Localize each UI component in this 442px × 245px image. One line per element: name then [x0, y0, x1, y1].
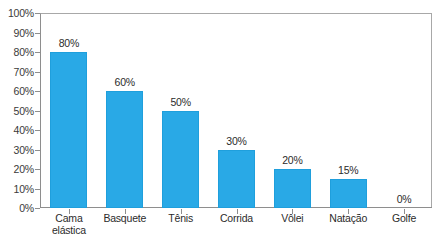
x-axis-category-label: Cama elástica [41, 212, 97, 236]
y-axis-tick-label: 90% [0, 27, 34, 39]
bar-value-label: 60% [115, 76, 135, 88]
bar-group: 15% [330, 13, 367, 208]
bar[interactable] [50, 52, 87, 208]
bar[interactable] [106, 91, 143, 208]
y-axis-tick-label: 80% [0, 46, 34, 58]
y-axis-tick-label: 50% [0, 105, 34, 117]
y-axis-tick-mark [35, 130, 40, 131]
y-axis-tick-label: 0% [0, 202, 34, 214]
bar-value-label: 50% [170, 96, 190, 108]
y-axis-tick-label: 10% [0, 183, 34, 195]
y-axis-tick-mark [35, 150, 40, 151]
bar-value-label: 30% [226, 135, 246, 147]
bar-value-label: 0% [397, 193, 412, 205]
y-axis-tick-label: 40% [0, 124, 34, 136]
y-axis-tick-mark [35, 72, 40, 73]
y-axis-tick-label: 30% [0, 144, 34, 156]
y-axis-tick-label: 60% [0, 85, 34, 97]
x-axis-labels: Cama elásticaBasqueteTênisCorridaVôleiNa… [41, 209, 432, 245]
y-axis-tick-mark [35, 189, 40, 190]
bar-group: 80% [50, 13, 87, 208]
bar-group: 30% [218, 13, 255, 208]
y-axis-tick-label: 70% [0, 66, 34, 78]
x-axis-tick-mark [348, 209, 349, 214]
x-axis-tick-mark [125, 209, 126, 214]
x-axis-tick-mark [181, 209, 182, 214]
bar-chart: 0%10%20%30%40%50%60%70%80%90%100% 80%60%… [0, 0, 442, 245]
bar[interactable] [330, 179, 367, 208]
bar[interactable] [218, 150, 255, 209]
y-axis: 0%10%20%30%40%50%60%70%80%90%100% [0, 0, 34, 245]
x-axis-tick-mark [404, 209, 405, 214]
bar[interactable] [274, 169, 311, 208]
bar-value-label: 15% [338, 164, 358, 176]
y-axis-tick-mark [35, 52, 40, 53]
y-axis-tick-label: 100% [0, 7, 34, 19]
x-axis-tick-mark [69, 209, 70, 214]
x-axis-tick-mark [292, 209, 293, 214]
y-axis-tick-mark [35, 208, 40, 209]
bar-group: 0% [386, 13, 423, 208]
bars-container: 80%60%50%30%20%15%0% [41, 13, 432, 208]
bar-group: 60% [106, 13, 143, 208]
y-axis-tick-mark [35, 91, 40, 92]
bar-group: 50% [162, 13, 199, 208]
y-axis-tick-mark [35, 169, 40, 170]
bar[interactable] [162, 111, 199, 209]
x-axis-tick-mark [237, 209, 238, 214]
y-axis-tick-mark [35, 13, 40, 14]
y-axis-tick-mark [35, 33, 40, 34]
bar-value-label: 20% [282, 154, 302, 166]
bar-value-label: 80% [59, 37, 79, 49]
y-axis-tick-mark [35, 111, 40, 112]
bar-group: 20% [274, 13, 311, 208]
y-axis-tick-label: 20% [0, 163, 34, 175]
